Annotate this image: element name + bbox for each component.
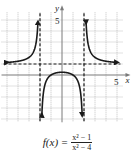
x-tick-label: 5 bbox=[114, 77, 119, 87]
function-caption: f(x) = x² − 1 x² − 4 bbox=[0, 126, 135, 158]
x-axis-label: x bbox=[125, 75, 130, 85]
function-graph: x y 5 5 bbox=[0, 0, 135, 126]
caption-fraction: x² − 1 x² − 4 bbox=[71, 133, 92, 152]
y-tick-label: 5 bbox=[55, 16, 60, 26]
caption-denominator: x² − 4 bbox=[72, 143, 91, 152]
caption-lhs: f(x) = bbox=[43, 136, 68, 148]
caption-numerator: x² − 1 bbox=[71, 133, 92, 143]
y-axis-label: y bbox=[54, 3, 59, 13]
